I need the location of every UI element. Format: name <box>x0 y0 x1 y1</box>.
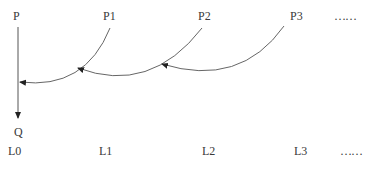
label-p3: P3 <box>290 10 303 22</box>
label-l3: L3 <box>294 145 307 157</box>
curve-p3-to-p2 <box>162 26 284 71</box>
label-p2: P2 <box>198 10 211 22</box>
label-q: Q <box>14 126 23 138</box>
label-p: P <box>13 10 20 22</box>
label-l0: L0 <box>8 145 21 157</box>
label-bottom-ellipsis: …… <box>340 145 362 157</box>
label-p1: P1 <box>103 10 116 22</box>
label-top-ellipsis: …… <box>334 10 356 22</box>
label-l1: L1 <box>99 145 112 157</box>
diagram-canvas <box>0 0 369 170</box>
curve-p1-to-p <box>20 28 110 83</box>
label-l2: L2 <box>202 145 215 157</box>
